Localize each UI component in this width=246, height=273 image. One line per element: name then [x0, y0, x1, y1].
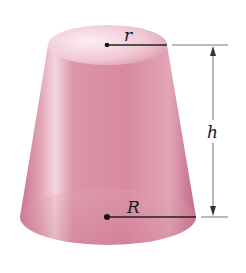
height-label: h [207, 122, 218, 142]
bottom-radius-label: R [126, 197, 140, 217]
top-center-dot [105, 43, 110, 48]
top-radius-label: r [124, 25, 133, 45]
frustum-diagram: r R h [0, 0, 246, 273]
arrow-up-icon [210, 46, 216, 56]
bottom-center-dot [104, 214, 110, 220]
arrow-down-icon [210, 206, 216, 216]
